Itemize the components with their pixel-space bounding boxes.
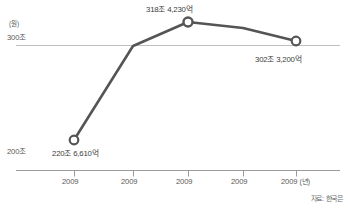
x-tick-label-5-year: 2009 — [281, 177, 298, 186]
data-point-marker-5 — [292, 37, 301, 46]
y-axis-unit-label: (원) — [9, 21, 19, 28]
x-axis-unit-suffix: (년) — [300, 178, 310, 185]
data-point-marker-1 — [70, 136, 79, 145]
data-label-peak: 318조 4,230억 — [146, 6, 193, 14]
data-line — [74, 22, 296, 140]
x-axis-ticks — [75, 171, 297, 177]
line-chart: (원) 300조 200조 318조 4,230억 302조 3,200억 22… — [0, 0, 348, 209]
x-tick-label-3: 2009 — [176, 178, 193, 186]
x-tick-label-1: 2009 — [62, 178, 79, 186]
source-note: 자료: 한국은 — [311, 195, 344, 202]
y-tick-label-300: 300조 — [7, 34, 26, 42]
data-point-marker-3 — [184, 18, 193, 27]
data-label-last: 302조 3,200억 — [255, 56, 302, 64]
x-tick-label-2: 2009 — [121, 178, 138, 186]
x-tick-label-4: 2009 — [231, 178, 248, 186]
x-tick-label-5: 2009 (년) — [281, 178, 310, 186]
y-tick-label-200: 200조 — [7, 148, 26, 156]
data-label-first: 220조 6,610억 — [52, 150, 99, 158]
